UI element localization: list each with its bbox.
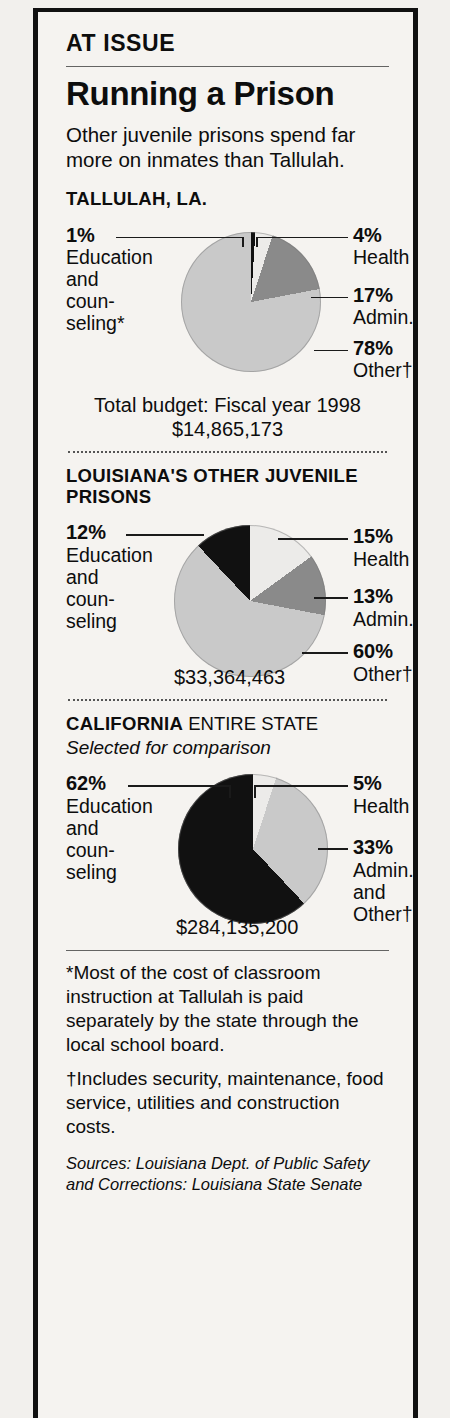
label-education-louisiana: 12% Education and coun- seling bbox=[66, 521, 178, 632]
pie-louisiana bbox=[174, 525, 326, 677]
total-tallulah: Total budget: Fiscal year 1998 $14,865,1… bbox=[66, 393, 389, 442]
sources-text: Sources: Louisiana Dept. of Public Safet… bbox=[66, 1153, 389, 1196]
label-education-l2-louisiana: and bbox=[66, 566, 99, 588]
label-admin-california: 33% Admin. and Other† bbox=[353, 836, 414, 925]
label-admin-text2-california: and bbox=[353, 881, 386, 903]
pie-california bbox=[178, 774, 328, 924]
leader-education-tallulah-v bbox=[242, 237, 244, 247]
leader-other-louisiana bbox=[302, 652, 348, 654]
leader-health-tallulah bbox=[256, 237, 348, 239]
footnote-dagger: †Includes security, maintenance, food se… bbox=[66, 1067, 389, 1139]
label-other-text-louisiana: Other† bbox=[353, 663, 413, 685]
label-education-l4-louisiana: seling bbox=[66, 610, 117, 632]
label-education-l2-tallulah: and bbox=[66, 268, 99, 290]
label-health-california: 5% Health bbox=[353, 772, 409, 817]
label-other-pct-louisiana: 60% bbox=[353, 640, 413, 663]
leader-health-louisiana bbox=[278, 538, 348, 540]
label-admin-pct-california: 33% bbox=[353, 836, 414, 859]
leader-health-tallulah-v bbox=[256, 237, 258, 247]
infographic-frame: AT ISSUE Running a Prison Other juvenile… bbox=[33, 8, 418, 1418]
label-other-tallulah: 78% Other† bbox=[353, 337, 413, 382]
total-amount-tallulah: $14,865,173 bbox=[66, 417, 389, 441]
label-education-l3-louisiana: coun- bbox=[66, 588, 115, 610]
chart-california: 62% Education and coun- seling 5% Health… bbox=[66, 764, 389, 934]
section-title-louisiana: LOUISIANA'S OTHER JUVENILE PRISONS bbox=[66, 465, 389, 507]
chart-tallulah: 1% Education and coun- seling* 4% Health… bbox=[66, 214, 389, 389]
label-admin-tallulah: 17% Admin. bbox=[353, 284, 414, 329]
label-education-pct-louisiana: 12% bbox=[66, 521, 178, 544]
label-health-text-louisiana: Health bbox=[353, 548, 409, 570]
deck-text: Other juvenile prisons spend far more on… bbox=[66, 122, 389, 173]
label-health-tallulah: 4% Health bbox=[353, 224, 409, 269]
section-subtitle-california: Selected for comparison bbox=[66, 737, 389, 759]
label-admin-pct-tallulah: 17% bbox=[353, 284, 414, 307]
leader-education-california-v bbox=[229, 785, 231, 798]
label-education-l3-california: coun- bbox=[66, 839, 115, 861]
label-health-pct-louisiana: 15% bbox=[353, 525, 409, 548]
label-education-l1-louisiana: Education bbox=[66, 544, 153, 566]
leader-admin-tallulah bbox=[311, 297, 348, 299]
label-health-pct-california: 5% bbox=[353, 772, 409, 795]
label-health-text-tallulah: Health bbox=[353, 246, 409, 268]
page-title: Running a Prison bbox=[66, 77, 389, 112]
label-admin-pct-louisiana: 13% bbox=[353, 585, 414, 608]
label-admin-text-tallulah: Admin. bbox=[353, 306, 414, 328]
footnote-asterisk: *Most of the cost of classroom instructi… bbox=[66, 961, 389, 1057]
label-admin-text3-california: Other† bbox=[353, 903, 413, 925]
section-title-california-bold: CALIFORNIA bbox=[66, 713, 183, 734]
label-education-l2-california: and bbox=[66, 817, 99, 839]
label-education-l1-california: Education bbox=[66, 795, 153, 817]
chart-louisiana: 12% Education and coun- seling 15% Healt… bbox=[66, 515, 389, 687]
label-admin-text-louisiana: Admin. bbox=[353, 608, 414, 630]
header-rule bbox=[66, 66, 389, 67]
label-admin-text-california: Admin. bbox=[353, 859, 414, 881]
leader-admin-california bbox=[318, 848, 348, 850]
label-health-louisiana: 15% Health bbox=[353, 525, 409, 570]
total-amount-california: $284,135,200 bbox=[176, 916, 298, 939]
label-other-text-tallulah: Other† bbox=[353, 359, 413, 381]
label-education-l4-california: seling bbox=[66, 861, 117, 883]
label-admin-louisiana: 13% Admin. bbox=[353, 585, 414, 630]
divider-2 bbox=[68, 699, 387, 701]
section-title-california: CALIFORNIA ENTIRE STATE bbox=[66, 713, 389, 734]
kicker: AT ISSUE bbox=[66, 32, 389, 55]
label-health-text-california: Health bbox=[353, 795, 409, 817]
label-other-pct-tallulah: 78% bbox=[353, 337, 413, 360]
leader-health-california-v bbox=[254, 785, 256, 798]
total-amount-louisiana: $33,364,463 bbox=[174, 666, 285, 689]
divider-1 bbox=[68, 451, 387, 453]
leader-health-california bbox=[254, 785, 348, 787]
leader-admin-louisiana bbox=[314, 597, 348, 599]
label-other-louisiana: 60% Other† bbox=[353, 640, 413, 685]
label-health-pct-tallulah: 4% bbox=[353, 224, 409, 247]
label-education-california: 62% Education and coun- seling bbox=[66, 772, 178, 883]
total-note-tallulah: Total budget: Fiscal year 1998 bbox=[94, 394, 361, 416]
label-education-l4-tallulah: seling* bbox=[66, 312, 125, 334]
section-title-tallulah: TALLULAH, LA. bbox=[66, 188, 389, 209]
label-education-l3-tallulah: coun- bbox=[66, 290, 115, 312]
label-education-pct-tallulah: 1% bbox=[66, 224, 176, 247]
label-education-tallulah: 1% Education and coun- seling* bbox=[66, 224, 176, 335]
label-education-l1-tallulah: Education bbox=[66, 246, 153, 268]
label-education-pct-california: 62% bbox=[66, 772, 178, 795]
footnote-rule bbox=[66, 950, 389, 951]
pie-tallulah bbox=[181, 232, 321, 372]
section-title-california-regular: ENTIRE STATE bbox=[183, 713, 318, 734]
leader-other-tallulah bbox=[314, 350, 348, 352]
